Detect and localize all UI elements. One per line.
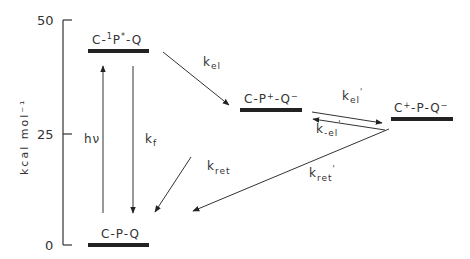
tick-25: 25 (37, 127, 54, 142)
svg-text:kret: kret (207, 159, 231, 176)
y-axis-label: kcal mol⁻¹ (18, 99, 31, 175)
energy-level-diagram: 50 25 0 kcal mol⁻¹ C-1P*-Q C-P+-Q− C+-P-… (0, 0, 470, 259)
svg-text:hν: hν (84, 132, 100, 146)
tick-0: 0 (45, 238, 53, 253)
level-ground: C-P-Q (88, 227, 149, 245)
arrow-kf: kf (133, 66, 157, 213)
y-axis: 50 25 0 kcal mol⁻¹ (18, 13, 72, 253)
svg-text:C-P+-Q−: C-P+-Q− (244, 92, 299, 106)
arrow-kel: kel (163, 52, 229, 105)
level-cp-radical: C-P+-Q− (240, 92, 302, 110)
arrow-kel-prime: kel' (312, 88, 382, 123)
svg-text:C-1P*-Q: C-1P*-Q (92, 32, 142, 47)
level-excited: C-1P*-Q (88, 32, 149, 51)
svg-text:k-el': k-el' (316, 120, 341, 138)
svg-text:kel: kel (203, 55, 221, 71)
level-c-radical: C+-P-Q− (391, 101, 453, 119)
svg-text:kf: kf (145, 132, 157, 148)
svg-text:C-P-Q: C-P-Q (101, 227, 140, 241)
arrow-kret: kret (155, 157, 231, 212)
svg-text:kret': kret' (309, 165, 336, 183)
arrow-hv: hν (84, 66, 103, 213)
tick-50: 50 (37, 13, 54, 28)
svg-text:C+-P-Q−: C+-P-Q− (394, 101, 448, 115)
svg-text:kel': kel' (342, 88, 363, 105)
